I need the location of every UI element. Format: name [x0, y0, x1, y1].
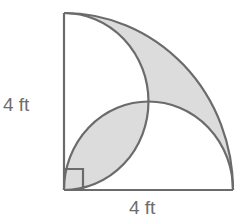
- quarter-circle-diagram: [0, 0, 247, 224]
- bottom-side-length-label: 4 ft: [129, 197, 155, 219]
- lens-shaded-region: [64, 102, 149, 191]
- left-side-length-label: 4 ft: [3, 94, 29, 116]
